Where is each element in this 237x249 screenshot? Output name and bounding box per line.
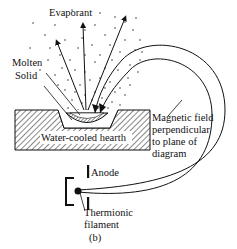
electron-beam-evaporation-diagram: Water-cooled hearth Evaporant Molten Sol… [0,0,237,249]
anode-label: Anode [91,167,119,178]
cathode-housing [66,178,74,205]
filament-label: filament [84,219,119,230]
molten-label: Molten [12,57,43,68]
evaporant-arrow-center [83,25,86,110]
hearth-label: Water-cooled hearth [41,132,127,143]
panel-label: (b) [89,232,102,244]
evaporant-arrow-left [57,42,84,110]
evaporant-particles [29,9,142,110]
solid-label: Solid [15,70,38,81]
anode-plate-upper [87,165,89,178]
thermionic-label: Thermionic [84,207,133,218]
evaporant-arrow-right [88,18,125,110]
magnetic-field-label-2: perpendicular [152,124,210,135]
magnetic-field-label-3: to plane of [152,136,197,147]
evaporant-label: Evaporant [49,7,92,18]
magnetic-field-label-1: Magnetic field [152,112,214,123]
magnetic-field-label-4: diagram [152,148,186,159]
